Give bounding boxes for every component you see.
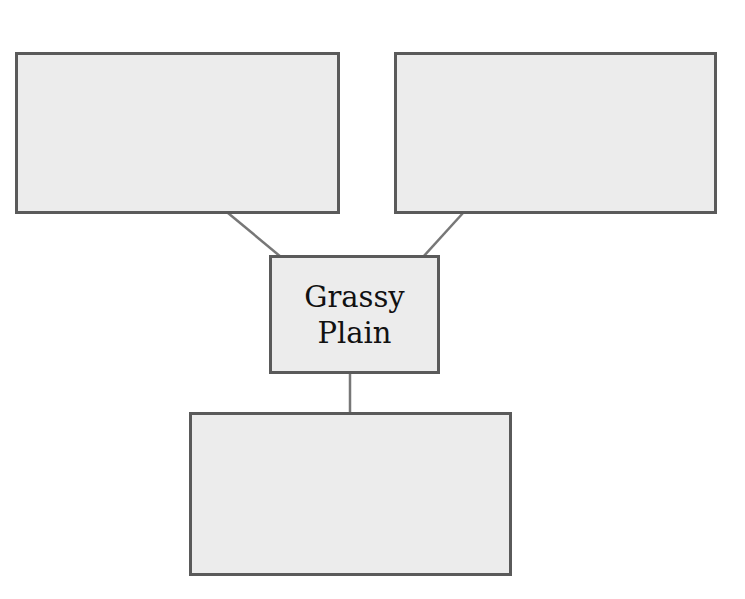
edge-top-right-to-center xyxy=(423,213,463,257)
diagram-canvas: Grassy Plain xyxy=(0,0,745,599)
edge-top-left-to-center xyxy=(228,213,281,257)
node-top-left xyxy=(15,52,340,214)
node-top-right xyxy=(394,52,717,214)
node-center-label: Grassy Plain xyxy=(304,279,404,351)
node-bottom xyxy=(189,412,512,576)
node-center: Grassy Plain xyxy=(269,255,440,374)
